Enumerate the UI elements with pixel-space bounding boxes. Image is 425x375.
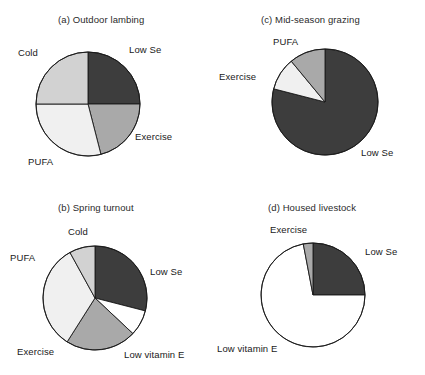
pie-a-label-pufa: PUFA <box>28 156 53 167</box>
pie-a-label-exercise: Exercise <box>135 131 172 142</box>
pie-b-label-cold: Cold <box>68 226 88 237</box>
pie-a-slice-low-se <box>88 52 140 104</box>
pie-b-label-exercise: Exercise <box>17 346 54 357</box>
pie-d-slice-low-se <box>313 243 365 295</box>
pie-c-label-pufa: PUFA <box>273 36 298 47</box>
pie-chart-figure: (a) Outdoor lambing Low Se Exercise PUFA… <box>0 0 425 375</box>
pie-c-label-exercise: Exercise <box>219 71 256 82</box>
pie-a-label-cold: Cold <box>18 47 38 58</box>
panel-c-mid-season-grazing: (c) Mid-season grazing Low Se PUFA Exerc… <box>213 0 425 188</box>
pie-a-label-low-se: Low Se <box>129 44 161 55</box>
pie-d-label-exercise: Exercise <box>270 224 307 235</box>
pie-b-label-low-se: Low Se <box>150 266 182 277</box>
pie-a-slice-cold <box>36 52 88 104</box>
pie-c-label-low-se: Low Se <box>361 147 393 158</box>
panel-b-spring-turnout: (b) Spring turnout Low Se Low vitamin E … <box>0 188 213 375</box>
panel-a-outdoor-lambing: (a) Outdoor lambing Low Se Exercise PUFA… <box>0 0 213 188</box>
panel-d-housed-livestock: (d) Housed livestock Low Se Low vitamin … <box>213 188 425 375</box>
pie-d-label-low-se: Low Se <box>365 246 397 257</box>
pie-b-label-pufa: PUFA <box>10 252 35 263</box>
pie-d-label-low-vitamin-e: Low vitamin E <box>217 343 277 354</box>
pie-b-label-low-vitamin-e: Low vitamin E <box>124 349 184 360</box>
pie-c-svg <box>213 0 425 188</box>
